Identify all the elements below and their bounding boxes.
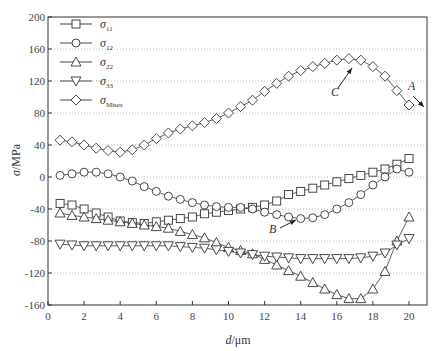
triangle-down-marker: [344, 255, 354, 264]
circle-marker: [152, 187, 160, 195]
circle-marker: [68, 170, 76, 178]
triangle-down-marker: [139, 242, 149, 251]
triangle-down-marker: [115, 242, 125, 251]
annotation-C: C: [331, 68, 352, 99]
triangle-up-marker: [199, 233, 209, 242]
legend-item: σ33: [60, 74, 113, 90]
square-marker: [297, 187, 305, 195]
legend-label: σ12: [100, 36, 113, 52]
triangle-up-marker: [332, 290, 342, 299]
triangle-up-marker: [175, 226, 185, 235]
diamond-marker: [139, 140, 149, 150]
circle-marker: [200, 201, 208, 209]
circle-marker: [297, 215, 305, 223]
y-tick-label: 200: [29, 11, 46, 23]
y-axis-title: σ/MPa: [9, 143, 23, 176]
triangle-down-marker: [308, 255, 318, 264]
x-tick-label: 4: [117, 310, 123, 322]
x-tick-label: 20: [404, 310, 416, 322]
square-marker: [309, 184, 317, 192]
diamond-marker: [368, 62, 378, 72]
triangle-down-marker: [91, 242, 101, 251]
triangle-up-marker: [211, 238, 221, 247]
triangle-up-marker: [71, 57, 81, 66]
legend-label: σ33: [100, 74, 113, 90]
diamond-marker: [260, 86, 270, 96]
square-marker: [68, 201, 76, 209]
triangle-down-marker: [404, 235, 414, 244]
y-tick-label: 160: [29, 43, 46, 55]
data-series: [55, 54, 414, 303]
square-marker: [333, 178, 341, 186]
diamond-marker: [127, 145, 137, 155]
circle-marker: [128, 177, 136, 185]
square-marker: [369, 168, 377, 176]
diamond-marker: [404, 100, 414, 110]
square-marker: [345, 175, 353, 183]
diamond-marker: [344, 54, 354, 64]
legend-item: σ22: [60, 55, 113, 71]
triangle-down-marker: [103, 242, 113, 251]
triangle-up-marker: [344, 294, 354, 303]
legend: σ11σ12σ22σ33σMises: [60, 17, 123, 109]
diamond-marker: [236, 102, 246, 112]
circle-marker: [104, 170, 112, 178]
svg-text:B: B: [269, 222, 277, 236]
legend-item: σMises: [60, 93, 123, 109]
triangle-down-marker: [151, 242, 161, 251]
triangle-up-marker: [404, 212, 414, 221]
circle-marker: [212, 203, 220, 211]
legend-label: σ11: [100, 17, 113, 33]
triangle-up-marker: [296, 271, 306, 280]
triangle-down-marker: [392, 241, 402, 250]
y-tick-label: -80: [30, 235, 45, 247]
triangle-down-marker: [127, 242, 137, 251]
diamond-marker: [55, 135, 65, 145]
legend-label: σMises: [100, 93, 123, 109]
circle-marker: [369, 181, 377, 189]
triangle-down-marker: [71, 77, 81, 86]
y-tick-label: -40: [30, 203, 45, 215]
circle-marker: [72, 39, 80, 47]
circle-marker: [381, 173, 389, 181]
diamond-marker: [224, 108, 234, 118]
square-marker: [200, 210, 208, 218]
stress-chart: -160-120-80-4004080120160200024681012141…: [0, 0, 442, 351]
circle-marker: [56, 171, 64, 179]
diamond-marker: [356, 55, 366, 65]
triangle-down-marker: [380, 249, 390, 258]
y-tick-label: 80: [34, 107, 46, 119]
y-tick-label: -120: [25, 267, 46, 279]
annotations: ABC: [269, 68, 424, 236]
diamond-marker: [187, 121, 197, 131]
square-marker: [72, 20, 80, 28]
diamond-marker: [151, 134, 161, 144]
diamond-marker: [175, 124, 185, 134]
circle-marker: [333, 205, 341, 213]
x-tick-label: 14: [295, 310, 307, 322]
circle-marker: [393, 165, 401, 173]
circle-marker: [321, 211, 329, 219]
circle-marker: [116, 173, 124, 181]
circle-marker: [273, 211, 281, 219]
triangle-up-marker: [356, 294, 366, 303]
diamond-marker: [103, 146, 113, 156]
circle-marker: [249, 205, 257, 213]
diamond-marker: [211, 114, 221, 124]
diamond-marker: [380, 71, 390, 81]
diamond-marker: [199, 118, 209, 128]
circle-marker: [188, 199, 196, 207]
circle-marker: [225, 203, 233, 211]
circle-marker: [309, 214, 317, 222]
diamond-marker: [320, 58, 330, 68]
diamond-marker: [272, 78, 282, 88]
diamond-marker: [332, 55, 342, 65]
x-tick-label: 18: [367, 310, 379, 322]
triangle-down-marker: [296, 255, 306, 264]
circle-marker: [140, 183, 148, 191]
square-marker: [405, 155, 413, 163]
y-tick-label: 40: [34, 139, 46, 151]
svg-text:A: A: [407, 79, 416, 93]
triangle-down-marker: [332, 255, 342, 264]
y-tick-label: -160: [25, 299, 46, 311]
